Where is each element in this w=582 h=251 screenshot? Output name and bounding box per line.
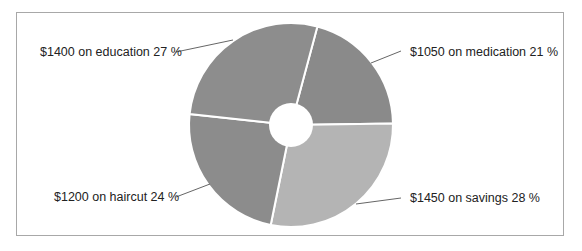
label-haircut: $1200 on haircut 24 % bbox=[54, 190, 179, 204]
leader-line-haircut bbox=[176, 184, 210, 197]
label-savings: $1450 on savings 28 % bbox=[410, 191, 540, 205]
leader-line-medication bbox=[371, 51, 401, 63]
label-medication: $1050 on medication 21 % bbox=[410, 45, 558, 59]
donut-chart bbox=[0, 0, 582, 251]
donut-hole bbox=[269, 103, 313, 147]
label-education: $1400 on education 27 % bbox=[40, 45, 182, 59]
